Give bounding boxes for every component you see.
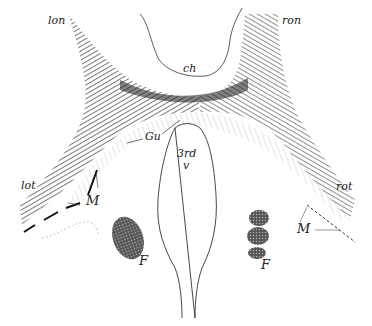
label-m-right: M [297, 222, 310, 235]
label-lon: lon [48, 15, 65, 26]
fornix-right-2 [247, 227, 269, 245]
label-f-left: F [139, 254, 148, 267]
label-ron: ron [282, 15, 301, 26]
faint-structure-left [42, 222, 98, 238]
label-gu: Gu [145, 131, 161, 142]
label-f-right: F [261, 258, 270, 271]
label-lot: lot [21, 180, 36, 191]
label-ch: ch [183, 63, 196, 74]
label-m-left: M [86, 194, 99, 207]
optic-chiasm-diagram: lon ron ch Gu 3rd v lot rot M M F F [0, 0, 372, 326]
label-rot: rot [336, 181, 352, 192]
fornix-right-1 [249, 210, 269, 226]
label-third-ventricle-line2: v [183, 160, 189, 171]
label-third-ventricle-line1: 3rd [177, 148, 196, 159]
